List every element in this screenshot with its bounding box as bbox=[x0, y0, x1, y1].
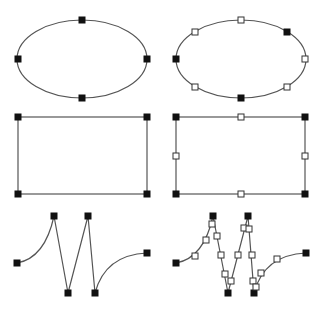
ellipse-subdivided-subdivision-handle-4[interactable] bbox=[192, 29, 198, 35]
path-subdivided-subdivision-handle-6[interactable] bbox=[192, 253, 198, 259]
ellipse-anchors-anchor-handle-0[interactable] bbox=[15, 56, 21, 62]
path-subdivided-anchor-handle-0[interactable] bbox=[173, 260, 179, 266]
rect-subdivided-anchor-handle-1[interactable] bbox=[302, 114, 308, 120]
rect-subdivided-anchor-handle-3[interactable] bbox=[302, 191, 308, 197]
path-subdivided-subdivision-handle-8[interactable] bbox=[209, 221, 215, 227]
path-subdivided-anchor-handle-2[interactable] bbox=[225, 290, 231, 296]
path-subdivided-subdivision-handle-10[interactable] bbox=[218, 252, 224, 258]
rect-subdivided-subdivision-handle-6[interactable] bbox=[173, 153, 179, 159]
rect-anchors-anchor-handle-2[interactable] bbox=[15, 191, 21, 197]
ellipse-subdivided-subdivision-handle-3[interactable] bbox=[238, 17, 244, 23]
diagram-canvas bbox=[0, 0, 328, 311]
path-subdivided-subdivision-handle-18[interactable] bbox=[253, 284, 259, 290]
handles-layer bbox=[14, 17, 309, 296]
path-subdivided-subdivision-handle-15[interactable] bbox=[246, 226, 252, 232]
path-subdivided-subdivision-handle-20[interactable] bbox=[274, 256, 280, 262]
path-subdivided-subdivision-handle-17[interactable] bbox=[250, 278, 256, 284]
ellipse-subdivided-anchor-handle-0[interactable] bbox=[173, 56, 179, 62]
rect-subdivided-anchor-handle-2[interactable] bbox=[173, 191, 179, 197]
path-subdivided-subdivision-handle-11[interactable] bbox=[222, 271, 228, 277]
rect-subdivided-subdivision-handle-7[interactable] bbox=[302, 153, 308, 159]
path-anchors-anchor-handle-5[interactable] bbox=[144, 250, 150, 256]
path-anchors-anchor-handle-0[interactable] bbox=[14, 260, 20, 266]
ellipse-subdivided-subdivision-handle-6[interactable] bbox=[192, 84, 198, 90]
path-subdivided-subdivision-handle-9[interactable] bbox=[214, 233, 220, 239]
rect-anchors-anchor-handle-0[interactable] bbox=[15, 114, 21, 120]
path-anchors-anchor-handle-1[interactable] bbox=[51, 213, 57, 219]
path-anchors-anchor-handle-3[interactable] bbox=[85, 213, 91, 219]
ellipse-subdivided-anchor-handle-2[interactable] bbox=[238, 95, 244, 101]
path-subdivided-anchor-handle-5[interactable] bbox=[303, 250, 309, 256]
rect-anchors-rect-shape[interactable] bbox=[18, 117, 147, 194]
ellipse-anchors-anchor-handle-1[interactable] bbox=[144, 56, 150, 62]
ellipse-subdivided-anchor-handle-1[interactable] bbox=[284, 29, 290, 35]
rect-subdivided-subdivision-handle-4[interactable] bbox=[238, 114, 244, 120]
ellipse-subdivided-subdivision-handle-5[interactable] bbox=[302, 56, 308, 62]
rect-subdivided-anchor-handle-0[interactable] bbox=[173, 114, 179, 120]
ellipse-anchors-ellipse-shape[interactable] bbox=[17, 20, 147, 98]
path-subdivided-anchor-handle-4[interactable] bbox=[251, 290, 257, 296]
ellipse-anchors-anchor-handle-2[interactable] bbox=[79, 17, 85, 23]
rect-anchors-anchor-handle-3[interactable] bbox=[144, 191, 150, 197]
path-anchors-anchor-handle-2[interactable] bbox=[65, 290, 71, 296]
rect-anchors-anchor-handle-1[interactable] bbox=[144, 114, 150, 120]
path-anchors-anchor-handle-4[interactable] bbox=[92, 290, 98, 296]
shapes-layer bbox=[17, 20, 306, 293]
rect-subdivided-rect-shape[interactable] bbox=[176, 117, 305, 194]
path-subdivided-subdivision-handle-16[interactable] bbox=[249, 252, 255, 258]
path-anchors-path-shape[interactable] bbox=[17, 216, 147, 293]
path-subdivided-subdivision-handle-12[interactable] bbox=[228, 278, 234, 284]
path-subdivided-subdivision-handle-7[interactable] bbox=[203, 237, 209, 243]
rect-subdivided-subdivision-handle-5[interactable] bbox=[238, 191, 244, 197]
path-subdivided-anchor-handle-1[interactable] bbox=[210, 213, 216, 219]
ellipse-subdivided-subdivision-handle-7[interactable] bbox=[284, 84, 290, 90]
ellipse-anchors-anchor-handle-3[interactable] bbox=[79, 95, 85, 101]
path-subdivided-subdivision-handle-19[interactable] bbox=[258, 270, 264, 276]
path-subdivided-anchor-handle-3[interactable] bbox=[245, 213, 251, 219]
path-subdivided-subdivision-handle-13[interactable] bbox=[235, 252, 241, 258]
